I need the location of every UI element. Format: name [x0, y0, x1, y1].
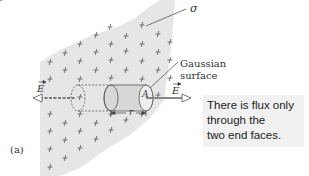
gaussian-surface-label: Gaussian surface — [180, 58, 226, 82]
surface-charge-density-label: σ — [190, 2, 198, 15]
part-label: (a) — [10, 144, 24, 155]
gaussian-surface-label-line2: surface — [180, 70, 226, 82]
radius-label: r — [129, 107, 133, 117]
gaussian-surface-label-line1: Gaussian — [180, 58, 226, 70]
figure-drawing — [0, 0, 309, 176]
area-label: A — [142, 89, 149, 99]
field-right-label: E — [172, 85, 179, 96]
callout-line-2: through the — [207, 113, 300, 128]
positive-charge-marks — [0, 0, 3, 3]
gaussian-sheet-figure: σ Gaussian surface E E A r (a) There is … — [0, 0, 309, 176]
flux-callout: There is flux only through the two end f… — [203, 95, 304, 147]
field-left-label: E — [37, 83, 44, 94]
callout-line-3: two end faces. — [207, 128, 300, 143]
callout-line-1: There is flux only — [207, 98, 300, 113]
